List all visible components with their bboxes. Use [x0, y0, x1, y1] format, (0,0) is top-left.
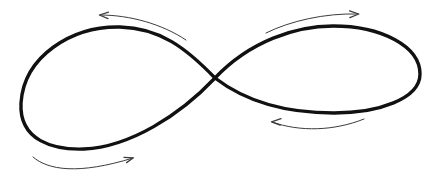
diagram-canvas: Figure-eight (lemniscate) curve with dir… [0, 0, 441, 184]
figure-eight-diagram: Figure-eight (lemniscate) curve with dir… [0, 0, 441, 184]
diagram-background [0, 0, 441, 184]
